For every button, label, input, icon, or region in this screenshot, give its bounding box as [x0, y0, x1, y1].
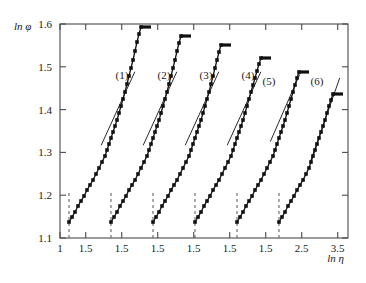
curve-marker — [257, 62, 261, 66]
curve-marker — [235, 136, 239, 140]
curve-marker — [115, 210, 119, 214]
curve-marker — [220, 172, 224, 176]
curve-marker — [160, 204, 164, 208]
curve-marker — [145, 154, 149, 158]
curve-marker — [298, 183, 302, 187]
curve-marker — [217, 50, 221, 54]
curve-marker — [281, 124, 285, 128]
curve-marker — [153, 130, 157, 134]
curve-marker — [155, 124, 159, 128]
curve-marker — [189, 148, 193, 152]
curve-marker — [109, 220, 113, 224]
x-tick-label-7: 2.5 — [295, 242, 309, 254]
curve-marker — [191, 142, 195, 146]
curve-marker — [136, 172, 140, 176]
curve-marker — [289, 199, 293, 203]
curve-marker — [286, 204, 290, 208]
curve-marker — [304, 172, 308, 176]
curve-marker — [283, 118, 287, 122]
curve-marker — [253, 188, 257, 192]
x-tick-label-2: 1.5 — [115, 242, 129, 254]
curve-marker — [195, 130, 199, 134]
curve-marker — [133, 49, 137, 53]
curve-marker — [157, 210, 161, 214]
curve-marker — [226, 160, 230, 164]
curve-label-2: (2) — [158, 69, 171, 82]
curve-marker — [193, 220, 197, 224]
x-tick-label-6: 1.5 — [259, 242, 273, 254]
curve-marker — [154, 215, 158, 219]
curve-marker — [247, 199, 251, 203]
curve-line-2 — [111, 36, 181, 222]
curve-marker — [103, 154, 107, 158]
curve-marker — [238, 215, 242, 219]
tangent-line-4 — [227, 72, 261, 146]
curve-marker — [157, 118, 161, 122]
curve-marker — [199, 118, 203, 122]
curve-labels: (1)(2)(3)(4)(5)(6) — [116, 69, 324, 88]
curve-marker — [171, 66, 175, 70]
curve-marker — [244, 204, 248, 208]
curve-marker — [163, 199, 167, 203]
curve-marker — [129, 66, 133, 70]
curve-marker — [181, 166, 185, 170]
curve-marker — [239, 124, 243, 128]
curve-marker — [130, 183, 134, 187]
curve-marker — [217, 178, 221, 182]
curve-marker — [127, 188, 131, 192]
curve-label-6: (6) — [311, 75, 324, 88]
curve-marker — [295, 188, 299, 192]
curve-marker — [250, 194, 254, 198]
curve-4 — [193, 56, 271, 224]
tangent-line-2 — [143, 72, 177, 146]
curve-1 — [67, 25, 151, 224]
curve-marker — [277, 220, 281, 224]
tangent-line-6 — [310, 78, 339, 162]
curve-marker — [175, 49, 179, 53]
curve-2 — [109, 34, 191, 224]
curve-marker — [214, 183, 218, 187]
curve-marker — [109, 136, 113, 140]
curve-marker — [283, 210, 287, 214]
curve-marker — [201, 111, 205, 115]
curve-marker — [241, 118, 245, 122]
curve-marker — [121, 199, 125, 203]
curve-marker — [231, 148, 235, 152]
tangent-line-1 — [101, 72, 135, 146]
curve-marker — [193, 136, 197, 140]
curve-marker — [215, 58, 219, 62]
curve-label-4: (4) — [242, 69, 255, 82]
chart-svg: 1.11.21.31.41.51.6 11.51.51.51.51.51.52.… — [0, 0, 366, 283]
curve-marker — [223, 166, 227, 170]
figure-root: 1.11.21.31.41.51.6 11.51.51.51.51.51.52.… — [0, 0, 366, 283]
curve-marker — [280, 215, 284, 219]
curve-marker — [279, 130, 283, 134]
curve-marker — [241, 210, 245, 214]
x-tick-label-0: 1 — [57, 242, 63, 254]
x-axis-title: ln η — [327, 252, 344, 264]
curve-label-3: (3) — [200, 69, 213, 82]
curve-line-1 — [69, 27, 141, 222]
curve-marker — [73, 210, 77, 214]
curve-marker — [173, 58, 177, 62]
curve-marker — [196, 215, 200, 219]
curve-marker — [301, 178, 305, 182]
curve-marker — [273, 148, 277, 152]
curve-marker — [255, 69, 259, 73]
curve-marker — [137, 32, 141, 36]
curve-marker — [97, 166, 101, 170]
tangent-line-3 — [185, 72, 219, 146]
curve-marker — [287, 104, 291, 108]
curve-marker — [111, 130, 115, 134]
y-axis-title: ln φ — [14, 20, 31, 32]
curve-marker — [142, 160, 146, 164]
curve-marker — [208, 194, 212, 198]
x-tick-label-5: 1.5 — [223, 242, 237, 254]
curve-marker — [166, 194, 170, 198]
curve-marker — [151, 136, 155, 140]
curve-marker — [100, 160, 104, 164]
curve-marker — [184, 160, 188, 164]
y-tick-label-1.6: 1.6 — [38, 18, 52, 30]
curve-marker — [112, 215, 116, 219]
curve-marker — [118, 204, 122, 208]
